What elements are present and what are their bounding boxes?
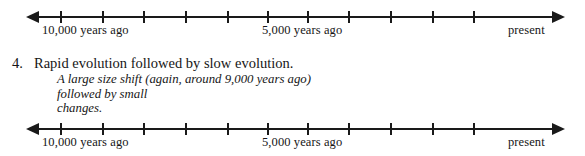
timeline-label-10000-years-ago: 10,000 years ago [42, 135, 129, 149]
timeline-tick [227, 11, 229, 23]
timeline-tick [348, 11, 350, 23]
timeline-tick [143, 123, 145, 135]
timeline-tick [307, 123, 309, 135]
timeline-tick [390, 123, 392, 135]
timeline-tick [473, 11, 475, 23]
timeline-right-arrow-icon [552, 123, 565, 135]
timeline-label-10000-years-ago: 10,000 years ago [42, 23, 129, 37]
timeline-axis-line [35, 128, 556, 130]
timeline-tick [348, 123, 350, 135]
timeline-top: 10,000 years ago 5,000 years ago present [0, 0, 585, 40]
timeline-tick [185, 11, 187, 23]
timeline-label-5000-years-ago: 5,000 years ago [262, 135, 342, 149]
timeline-tick [185, 123, 187, 135]
timeline-tick [432, 123, 434, 135]
item-heading: 4. Rapid evolution followed by slow evol… [12, 55, 293, 72]
item-title: Rapid evolution followed by slow evoluti… [34, 55, 293, 72]
figure-page: { "colors": { "ink": "#161616", "axis": … [0, 0, 585, 156]
timeline-tick [267, 11, 269, 23]
timeline-label-present: present [508, 135, 545, 149]
timeline-tick [390, 11, 392, 23]
timeline-top-axis [26, 16, 565, 18]
item-description-line-1: A large size shift (again, around 9,000 … [57, 72, 357, 101]
timeline-tick [307, 11, 309, 23]
item-description: A large size shift (again, around 9,000 … [57, 72, 357, 116]
timeline-tick [473, 123, 475, 135]
timeline-tick [60, 11, 62, 23]
timeline-tick [227, 123, 229, 135]
timeline-bottom: 10,000 years ago 5,000 years ago present [0, 112, 585, 152]
timeline-tick [102, 11, 104, 23]
timeline-tick [102, 123, 104, 135]
timeline-tick [143, 11, 145, 23]
item-number: 4. [12, 55, 34, 72]
timeline-label-5000-years-ago: 5,000 years ago [262, 23, 342, 37]
timeline-tick [432, 11, 434, 23]
timeline-tick [60, 123, 62, 135]
timeline-bottom-axis [26, 128, 565, 130]
timeline-right-arrow-icon [552, 11, 565, 23]
timeline-label-present: present [508, 23, 545, 37]
timeline-axis-line [35, 16, 556, 18]
timeline-tick [267, 123, 269, 135]
